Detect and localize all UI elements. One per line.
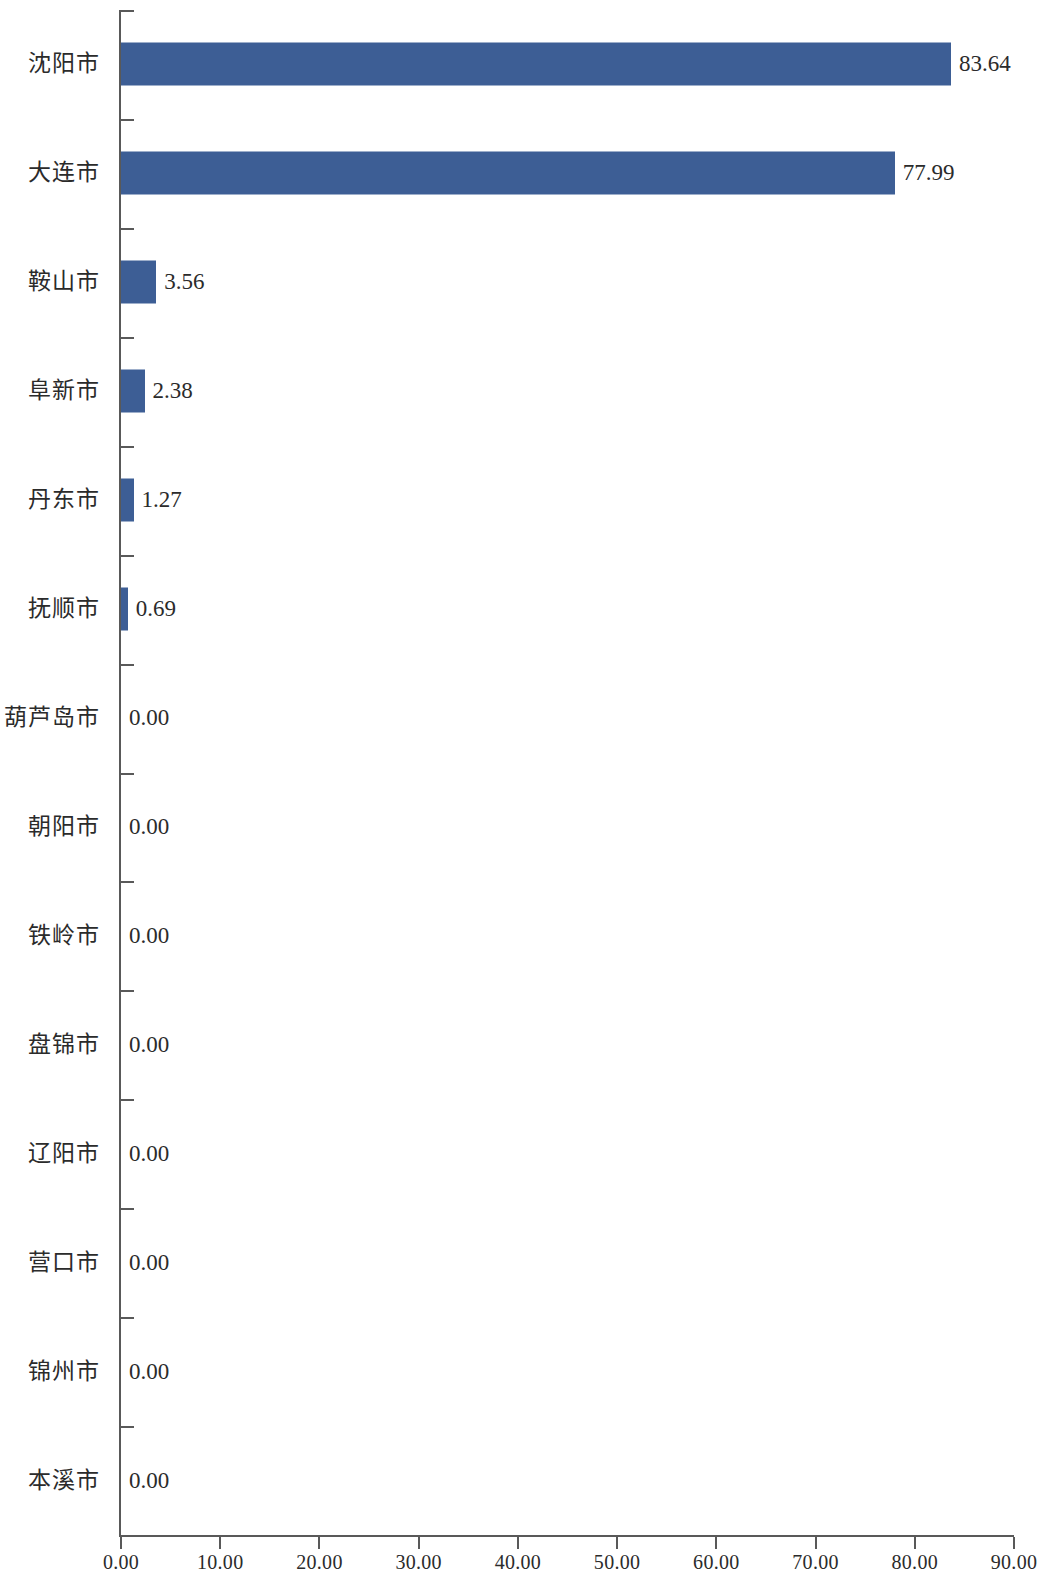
y-axis-tick xyxy=(121,337,134,339)
y-axis-tick xyxy=(121,1535,134,1537)
bar xyxy=(121,479,134,522)
category-label: 大连市 xyxy=(28,160,100,186)
bar xyxy=(121,261,156,304)
bar-value-label: 2.38 xyxy=(153,378,193,404)
x-axis-tick-label: 60.00 xyxy=(693,1552,740,1572)
bar-row: 营口市0.00 xyxy=(0,1208,1041,1317)
bar-row: 朝阳市0.00 xyxy=(0,773,1041,882)
x-axis-tick xyxy=(517,1537,519,1549)
bar-value-label: 3.56 xyxy=(164,269,204,295)
bar-value-label: 0.00 xyxy=(129,1359,169,1385)
y-axis-tick xyxy=(121,1099,134,1101)
bar-value-label: 0.00 xyxy=(129,1141,169,1167)
category-label: 葫芦岛市 xyxy=(4,705,100,731)
bar-value-label: 0.00 xyxy=(129,1032,169,1058)
bar xyxy=(121,588,128,631)
bar-row: 本溪市0.00 xyxy=(0,1426,1041,1535)
bar-value-label: 0.00 xyxy=(129,1250,169,1276)
x-axis-line xyxy=(119,1535,1014,1537)
bar-value-label: 0.00 xyxy=(129,923,169,949)
y-axis-tick xyxy=(121,446,134,448)
category-label: 辽阳市 xyxy=(28,1141,100,1167)
bar xyxy=(121,152,895,195)
y-axis-tick xyxy=(121,990,134,992)
y-axis-tick xyxy=(121,1208,134,1210)
bar-row: 盘锦市0.00 xyxy=(0,990,1041,1099)
category-label: 锦州市 xyxy=(28,1359,100,1385)
x-axis-tick-label: 80.00 xyxy=(892,1552,939,1572)
x-axis-tick xyxy=(1013,1537,1015,1549)
y-axis-tick xyxy=(121,773,134,775)
category-label: 本溪市 xyxy=(28,1468,100,1494)
x-axis-tick xyxy=(418,1537,420,1549)
x-axis-tick xyxy=(715,1537,717,1549)
bar-row: 葫芦岛市0.00 xyxy=(0,664,1041,773)
x-axis-tick xyxy=(120,1537,122,1549)
bar-value-label: 0.00 xyxy=(129,1468,169,1494)
bar-value-label: 0.00 xyxy=(129,705,169,731)
y-axis-tick xyxy=(121,664,134,666)
bar-value-label: 0.69 xyxy=(136,596,176,622)
bar-row: 铁岭市0.00 xyxy=(0,881,1041,990)
y-axis-tick xyxy=(121,1317,134,1319)
category-label: 阜新市 xyxy=(28,378,100,404)
category-label: 沈阳市 xyxy=(28,51,100,77)
bar-value-label: 1.27 xyxy=(142,487,182,513)
x-axis-tick-label: 70.00 xyxy=(792,1552,839,1572)
bar-row: 沈阳市83.64 xyxy=(0,10,1041,119)
category-label: 营口市 xyxy=(28,1250,100,1276)
bar xyxy=(121,370,145,413)
x-axis-tick-label: 0.00 xyxy=(103,1552,139,1572)
bar-row: 大连市77.99 xyxy=(0,119,1041,228)
x-axis-tick xyxy=(219,1537,221,1549)
x-axis-tick-label: 30.00 xyxy=(395,1552,442,1572)
bar-row: 丹东市1.27 xyxy=(0,446,1041,555)
x-axis-tick-label: 50.00 xyxy=(594,1552,641,1572)
bar-row: 辽阳市0.00 xyxy=(0,1099,1041,1208)
bar-value-label: 0.00 xyxy=(129,814,169,840)
bar-value-label: 77.99 xyxy=(903,160,955,186)
y-axis-tick xyxy=(121,1426,134,1428)
y-axis-tick xyxy=(121,555,134,557)
x-axis-tick xyxy=(616,1537,618,1549)
x-axis-tick-label: 20.00 xyxy=(296,1552,343,1572)
x-axis-tick xyxy=(914,1537,916,1549)
x-axis-tick xyxy=(815,1537,817,1549)
x-axis-tick-label: 90.00 xyxy=(991,1552,1038,1572)
category-label: 朝阳市 xyxy=(28,814,100,840)
x-axis-tick xyxy=(318,1537,320,1549)
x-axis-tick-label: 10.00 xyxy=(197,1552,244,1572)
category-label: 铁岭市 xyxy=(28,923,100,949)
category-label: 丹东市 xyxy=(28,487,100,513)
bar-value-label: 83.64 xyxy=(959,51,1011,77)
bar-row: 鞍山市3.56 xyxy=(0,228,1041,337)
y-axis-tick xyxy=(121,881,134,883)
bar-row: 阜新市2.38 xyxy=(0,337,1041,446)
category-label: 鞍山市 xyxy=(28,269,100,295)
bar xyxy=(121,43,951,86)
category-label: 抚顺市 xyxy=(28,596,100,622)
y-axis-tick xyxy=(121,10,134,12)
y-axis-tick xyxy=(121,119,134,121)
x-axis-tick-label: 40.00 xyxy=(495,1552,542,1572)
category-label: 盘锦市 xyxy=(28,1032,100,1058)
y-axis-tick xyxy=(121,228,134,230)
bar-row: 抚顺市0.69 xyxy=(0,555,1041,664)
bar-chart: 沈阳市83.64大连市77.99鞍山市3.56阜新市2.38丹东市1.27抚顺市… xyxy=(0,0,1041,1572)
bar-row: 锦州市0.00 xyxy=(0,1317,1041,1426)
